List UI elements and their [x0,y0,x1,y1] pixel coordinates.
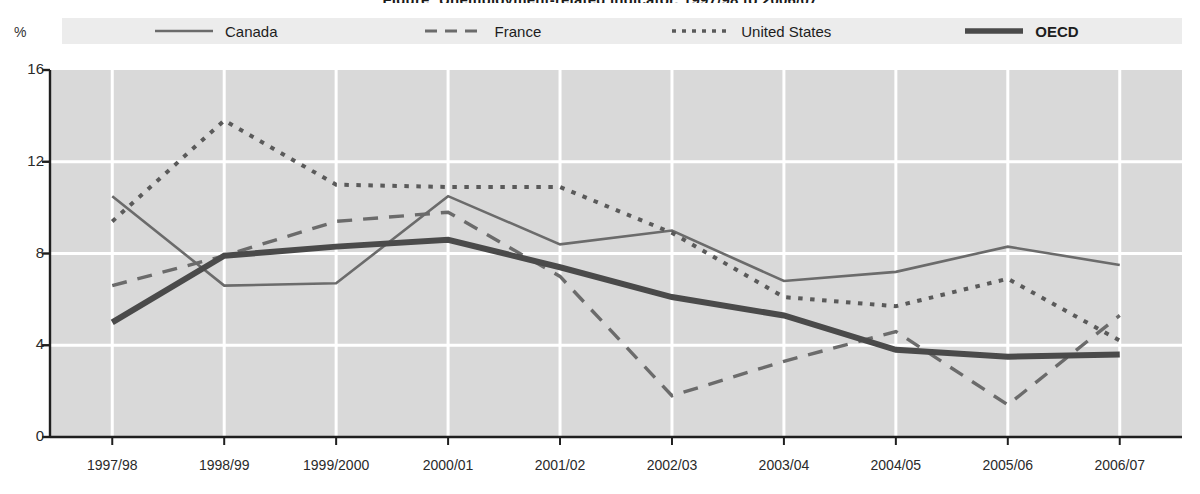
x-tick-label: 2001/02 [500,457,620,473]
x-tick-label: 2002/03 [612,457,732,473]
x-tick-label: 1998/99 [164,457,284,473]
y-tick-label: 4 [10,335,44,352]
y-axis-ticks: 1612840 [0,0,44,494]
x-tick-label: 2005/06 [948,457,1068,473]
x-tick-label: 2006/07 [1060,457,1180,473]
y-tick-label: 12 [10,152,44,169]
y-tick-label: 8 [10,244,44,261]
chart-figure: Figure: Unemployment-related indicator, … [0,0,1200,494]
plot-area [0,0,1200,494]
plot-canvas [0,0,1200,494]
x-tick-label: 2000/01 [388,457,508,473]
x-tick-label: 2004/05 [836,457,956,473]
y-tick-label: 0 [10,427,44,444]
x-tick-label: 1997/98 [52,457,172,473]
x-tick-label: 2003/04 [724,457,844,473]
y-tick-label: 16 [10,60,44,77]
x-tick-label: 1999/2000 [276,457,396,473]
